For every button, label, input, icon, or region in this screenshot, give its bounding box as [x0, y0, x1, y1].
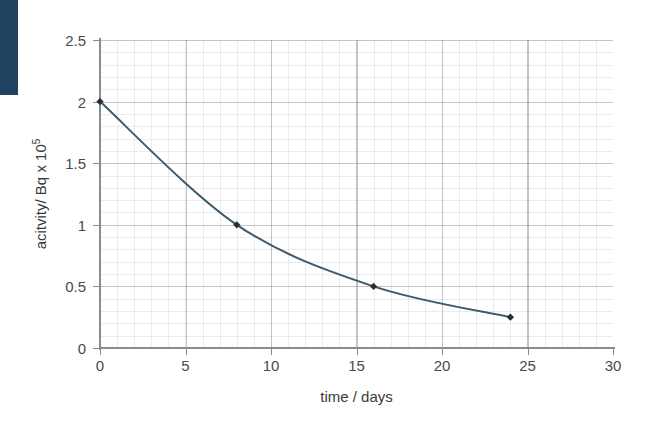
x-tick-label: 30 [593, 357, 633, 374]
decay-curve-figure: 2.5 2 1.5 1 0.5 0 0 5 10 15 20 25 30 tim… [0, 0, 664, 425]
y-axis-title: acitvity/ Bq x 105 [31, 39, 49, 349]
x-tick-label: 25 [508, 357, 548, 374]
x-tick-label: 0 [80, 357, 120, 374]
x-tick-mark [613, 349, 614, 355]
x-tick-mark [528, 349, 529, 355]
x-tick-label: 10 [251, 357, 291, 374]
x-tick-mark [357, 349, 358, 355]
x-axis-title: time / days [100, 388, 613, 405]
x-tick-label: 20 [422, 357, 462, 374]
x-tick-mark [442, 349, 443, 355]
y-axis-title-text: acitvity/ Bq x 10 [32, 144, 49, 249]
y-tick-mark [93, 40, 100, 41]
y-axis-title-exponent: 5 [31, 139, 42, 145]
y-tick-mark [93, 225, 100, 226]
y-tick-mark [93, 286, 100, 287]
plot-area [100, 40, 613, 348]
y-tick-mark [93, 348, 100, 349]
x-tick-label: 15 [337, 357, 377, 374]
x-tick-mark [100, 349, 101, 355]
x-tick-label: 5 [166, 357, 206, 374]
y-tick-mark [93, 163, 100, 164]
x-tick-mark [271, 349, 272, 355]
y-tick-mark [93, 102, 100, 103]
x-tick-mark [186, 349, 187, 355]
y-axis-line [99, 38, 101, 350]
